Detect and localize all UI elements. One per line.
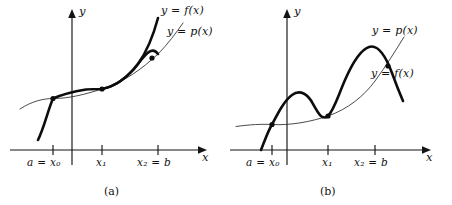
node-dot-x0 bbox=[269, 122, 274, 127]
curve-label-p: y = p(x) bbox=[372, 25, 418, 36]
panel-a: y x a = x₀ x₁ x₂ = b y = f(x) y = p(x) (… bbox=[0, 0, 226, 205]
panel-caption-b: (b) bbox=[320, 186, 336, 197]
y-axis-label: y bbox=[79, 6, 86, 18]
node-dot-x2 bbox=[149, 55, 154, 60]
tick-label-x0: a = x₀ bbox=[27, 157, 61, 168]
curve-f-a bbox=[38, 51, 158, 140]
node-dot-x0 bbox=[50, 96, 55, 101]
tick-label-x2: x₂ = b bbox=[137, 157, 171, 168]
tick-label-x0: a = x₀ bbox=[246, 157, 280, 168]
curve-f-a-tail bbox=[102, 18, 158, 89]
node-dot-x1 bbox=[325, 113, 330, 118]
y-axis-label: y bbox=[294, 6, 301, 18]
curve-label-p: y = p(x) bbox=[167, 26, 213, 37]
curve-p-a bbox=[20, 23, 183, 109]
tick-label-x2: x₂ = b bbox=[354, 157, 388, 168]
curve-label-f: y = f(x) bbox=[371, 68, 414, 79]
panel-b: y x a = x₀ x₁ x₂ = b y = p(x) y = f(x) (… bbox=[226, 0, 452, 205]
curve-label-f: y = f(x) bbox=[161, 5, 204, 16]
node-dot-x1 bbox=[99, 86, 104, 91]
y-axis-arrow-icon bbox=[68, 9, 76, 18]
figure-container: y x a = x₀ x₁ x₂ = b y = f(x) y = p(x) (… bbox=[0, 0, 452, 205]
panel-b-plot bbox=[226, 0, 452, 205]
x-axis-label: x bbox=[202, 152, 209, 164]
tick-label-x1: x₁ bbox=[96, 157, 107, 168]
curve-f-b bbox=[261, 47, 403, 150]
y-axis-arrow-icon bbox=[283, 9, 291, 18]
panel-caption-a: (a) bbox=[104, 186, 119, 197]
tick-label-x1: x₁ bbox=[322, 157, 333, 168]
x-axis-label: x bbox=[426, 152, 433, 164]
